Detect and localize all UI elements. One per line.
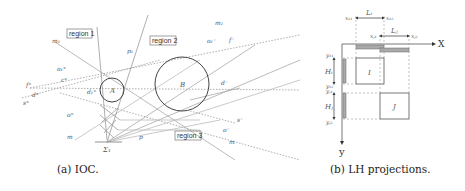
label-HJ: Hⱼ: [324, 103, 333, 111]
label-d-minus: d⁻: [221, 79, 228, 86]
label-d-plus: d⁺: [32, 91, 39, 98]
label-f-plus: f⁺: [25, 81, 31, 89]
label-xI1: x₁₁: [345, 15, 353, 21]
label-c-plus: c⁺: [61, 76, 68, 83]
x-axis-label: X: [438, 39, 445, 49]
box-i-label: I: [367, 69, 371, 77]
box-j-label: J: [391, 103, 397, 111]
lh-projection-diagram: [333, 16, 437, 145]
circle-a-label: A: [109, 87, 115, 95]
label-yJ1: yⱼ₁: [325, 88, 333, 95]
label-s-minus: s⁻: [237, 116, 243, 123]
caption-a: (a) IOC.: [57, 163, 99, 175]
label-LJ: Lⱼ: [390, 27, 398, 35]
label-o1-minus: o₁⁻: [207, 37, 216, 44]
label-yI1: y₁₁: [325, 52, 334, 59]
label-xI2: x₁₂: [386, 15, 394, 21]
label-LI: Lᵢ: [365, 9, 373, 17]
label-o1-plus: o₁⁺: [57, 65, 66, 72]
label-m-bottom: m: [67, 133, 73, 140]
label-m-right: m: [229, 138, 235, 145]
label-xJ1: xⱼ₁: [370, 33, 377, 39]
label-xJ2: xⱼ₂: [411, 33, 418, 39]
label-p1: p₁: [127, 47, 133, 55]
label-m1: m₁: [52, 37, 60, 44]
label-d1-plus: d₁⁺: [87, 88, 96, 95]
label-p: p: [139, 133, 143, 141]
region-3-label: region 3: [177, 132, 202, 140]
caption-b: (b) LH projections.: [330, 163, 431, 175]
label-sigma1: Σ₁: [102, 146, 111, 154]
y-axis-label: y: [338, 146, 345, 157]
label-s-plus: s⁺: [23, 99, 29, 106]
label-HI: Hᵢ: [324, 68, 333, 76]
label-m-top: m₁: [215, 19, 223, 26]
region-1-label: region 1: [69, 30, 94, 38]
region-2-label: region 2: [152, 37, 177, 45]
label-f-minus: f⁻: [228, 36, 234, 44]
label-o-plus: o⁺: [67, 111, 74, 118]
circle-b-label: B: [179, 81, 185, 89]
label-o-minus: o⁻: [223, 126, 230, 133]
label-yJ2: yⱼ₂: [325, 119, 333, 126]
